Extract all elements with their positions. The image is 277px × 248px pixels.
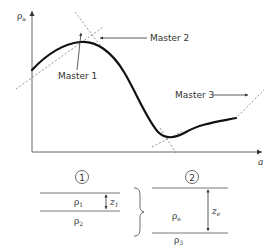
master3-label: Master 3 [175,90,214,100]
x-axis-label: a [258,157,263,167]
model2-layer-top: ρe [172,211,181,222]
master1-label: Master 1 [58,71,97,81]
axes: ρa a [17,11,263,167]
y-axis-label: ρa [17,11,26,22]
equivalence-brace [134,188,144,236]
master3-tangent [235,90,264,119]
model2-thickness: ze [211,206,221,217]
min-tangent-b [160,128,176,153]
annotations: Master 2 Master 1 Master 3 [58,33,248,100]
model-1: 1 ρ1 ρ2 z1 [40,171,120,228]
master1-pointer [77,33,81,70]
model1-number: 1 [79,173,85,183]
master2-label: Master 2 [150,33,189,43]
resistivity-curve-diagram: ρa a Master 2 Master 1 Master 3 1 ρ1 ρ2 … [0,0,277,248]
master-curve-tangents [16,12,264,153]
model2-layer-bottom: ρ3 [174,235,183,246]
model1-layer-bottom: ρ2 [74,216,83,227]
master2-tangent [75,12,103,49]
model1-layer-top: ρ1 [74,197,83,208]
model1-thickness: z1 [109,197,119,208]
model2-number: 2 [189,173,195,183]
model-2: 2 ρe ρ3 ze [152,171,228,247]
